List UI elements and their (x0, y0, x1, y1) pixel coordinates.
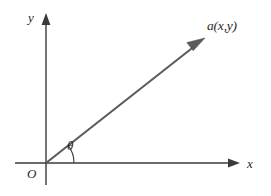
vector-diagram-figure: y x O θ a(x,y) (0, 0, 271, 196)
y-axis (42, 13, 51, 185)
vector-label: a(x,y) (207, 19, 237, 33)
y-axis-label: y (28, 11, 34, 24)
angle-theta-label: θ (67, 139, 73, 152)
origin-label: O (27, 167, 36, 180)
x-axis-label: x (247, 157, 253, 170)
x-axis-arrowhead-icon (228, 159, 240, 168)
y-axis-arrowhead-icon (42, 13, 51, 25)
